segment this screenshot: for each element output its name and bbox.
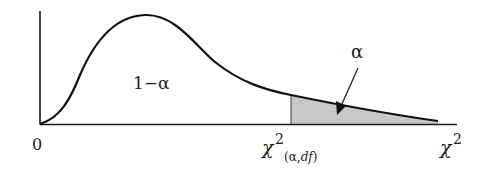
- chi-square-diagram: 0 1−α α χ 2 (α,df) χ 2: [0, 0, 483, 179]
- svg-text:χ: χ: [438, 136, 453, 158]
- svg-text:2: 2: [275, 131, 284, 147]
- svg-text:χ: χ: [260, 136, 275, 158]
- svg-text:2: 2: [453, 131, 462, 147]
- area-left-label: 1−α: [133, 73, 170, 93]
- svg-text:(α,df): (α,df): [284, 150, 317, 164]
- area-right-label: α: [351, 41, 363, 62]
- x-axis-label: χ 2: [438, 131, 462, 158]
- density-curve: [40, 15, 438, 124]
- critical-value-label: χ 2 (α,df): [260, 131, 317, 164]
- origin-label: 0: [32, 135, 42, 154]
